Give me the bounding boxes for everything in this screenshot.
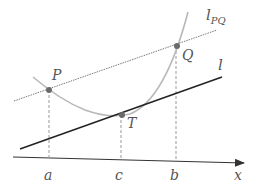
point-t — [119, 112, 125, 118]
mean-value-theorem-diagram: P Q T l lPQ a c b x — [0, 0, 270, 184]
label-c: c — [115, 167, 123, 183]
label-a: a — [44, 167, 52, 183]
label-l-pq: lPQ — [206, 6, 226, 26]
point-q — [174, 43, 180, 49]
point-p — [46, 87, 52, 93]
label-t: T — [127, 115, 138, 131]
label-l-pq-sub: PQ — [210, 15, 226, 26]
x-axis — [13, 157, 244, 163]
label-b: b — [170, 167, 179, 183]
function-curve — [33, 12, 188, 116]
label-l: l — [218, 56, 223, 74]
label-p: P — [51, 67, 62, 83]
label-x: x — [234, 167, 242, 183]
label-q: Q — [182, 47, 194, 63]
